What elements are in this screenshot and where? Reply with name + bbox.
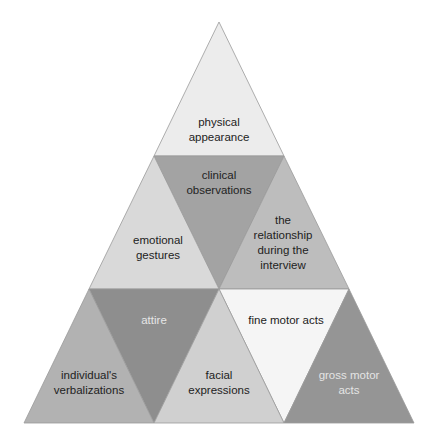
label-emotional-gestures: emotional gestures	[133, 233, 183, 263]
label-fine-motor-acts: fine motor acts	[248, 313, 323, 328]
label-individuals-verbalizations: individual's verbalizations	[54, 368, 124, 398]
label-clinical-observations: clinical observations	[186, 168, 251, 198]
label-facial-expressions: facial expressions	[188, 368, 249, 398]
label-gross-motor-acts: gross motor acts	[319, 368, 380, 398]
label-relationship: the relationship during the interview	[254, 213, 313, 273]
label-attire: attire	[141, 313, 167, 328]
label-physical-appearance: physical appearance	[189, 115, 250, 145]
